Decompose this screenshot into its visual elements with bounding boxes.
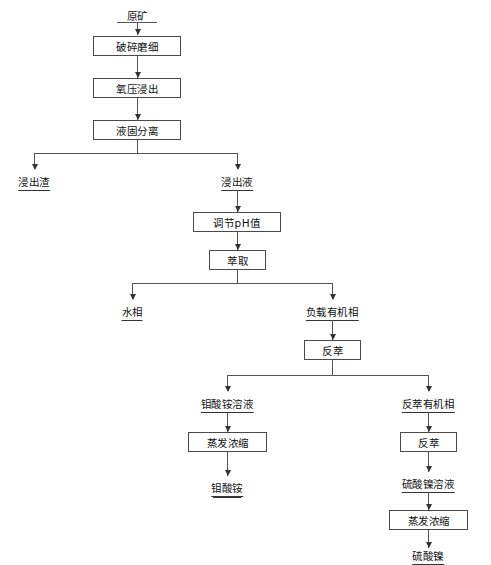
arrowhead-nickel-solution	[426, 466, 432, 472]
arrowhead-stripped-organic	[426, 386, 432, 392]
arrowhead-crush	[135, 29, 141, 35]
split-bar-separation	[34, 153, 238, 154]
arrowhead-residue	[32, 164, 38, 170]
split-bar-stripping1	[227, 375, 428, 376]
node-stripping-1: 反萃	[304, 340, 361, 360]
node-extraction: 萃取	[209, 250, 266, 270]
node-liquid-solid-separation: 液固分离	[93, 120, 181, 140]
node-evaporation-concentration-2: 蒸发浓缩	[389, 510, 468, 530]
node-evaporation-concentration-1: 蒸发浓缩	[188, 432, 267, 452]
node-nickel-sulfate: 硫酸镍	[412, 548, 444, 565]
node-aqueous-phase: 水相	[122, 304, 143, 321]
split-bar-extraction	[132, 283, 332, 284]
node-stripped-organic-phase: 反萃有机相	[402, 396, 455, 413]
arrowhead-liquor	[235, 164, 241, 170]
edge-stripping1-down	[332, 360, 333, 375]
node-oxygen-pressure-leach: 氧压浸出	[93, 78, 181, 98]
node-adjust-ph: 调节pH值	[193, 212, 281, 232]
edge-separation-down	[137, 140, 138, 154]
node-loaded-organic-phase: 负载有机相	[306, 304, 359, 321]
arrowhead-loaded-organic	[330, 294, 336, 300]
flowchart-canvas: 原矿 破碎磨细 氧压浸出 液固分离 浸出渣 浸出液 调节pH值 萃取 水相 负载…	[0, 0, 491, 565]
node-leach-residue: 浸出渣	[18, 174, 50, 191]
arrowhead-ammonium-molybdate	[225, 470, 231, 476]
node-stripping-2: 反萃	[400, 432, 457, 452]
node-leach-liquor: 浸出液	[221, 174, 253, 191]
node-crush-grind: 破碎磨细	[93, 36, 181, 56]
arrowhead-molybdate-solution	[225, 386, 231, 392]
node-ammonium-molybdate: 钼酸铵	[211, 480, 243, 497]
arrowhead-aqueous	[130, 294, 136, 300]
node-nickel-sulfate-solution: 硫酸镍溶液	[402, 476, 455, 493]
node-ammonium-molybdate-solution: 钼酸铵溶液	[201, 396, 254, 413]
edge-extraction-down	[237, 270, 238, 284]
